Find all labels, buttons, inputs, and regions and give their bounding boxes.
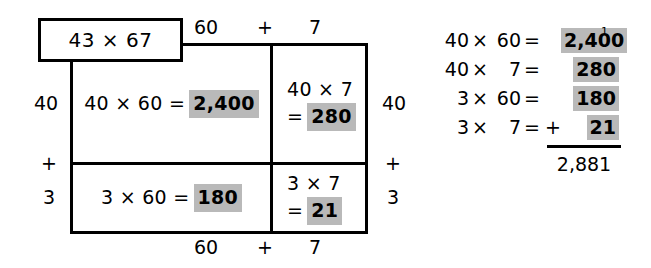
cell-bottom-right-expression: 3 × 7 — [287, 171, 341, 196]
carry-digit: 1 — [601, 26, 608, 37]
equals-icon: = — [521, 87, 543, 109]
calc-row: 40 × 7 = 280 — [443, 57, 627, 86]
left-label-3: 3 — [36, 186, 62, 208]
calc-row-value-wrap: 180 — [561, 86, 619, 111]
calc-row: 3 × 60 = 180 — [443, 86, 627, 115]
equals-icon: = — [521, 116, 543, 138]
calc-row-value: 180 — [573, 86, 619, 111]
equals-icon: = — [521, 58, 543, 80]
calc-row-value-wrap: 21 — [561, 115, 619, 140]
partial-products-calculation: 1 40 × 60 = 2,400 40 × 7 = 280 3 × 60 = … — [443, 28, 627, 183]
left-label-40: 40 — [28, 92, 64, 114]
cell-bottom-left-result: 180 — [194, 184, 243, 212]
multiply-icon: × — [469, 29, 491, 51]
equals-icon: = — [521, 29, 543, 51]
cell-top-right: 40 × 7 = 280 — [273, 46, 365, 162]
calc-row-operand-a: 3 — [443, 87, 469, 109]
cell-bottom-right: 3 × 7 = 21 — [273, 165, 365, 231]
cell-top-right-equals: = — [287, 104, 303, 129]
calc-row-value-wrap: 280 — [561, 57, 619, 82]
cell-bottom-left-expression: 3 × 60 = — [101, 185, 190, 210]
cell-top-right-expression: 40 × 7 — [287, 77, 353, 102]
calc-row-operand-a: 40 — [443, 29, 469, 51]
right-label-40: 40 — [376, 92, 412, 114]
calc-row-value-wrap: 2,400 — [561, 28, 627, 53]
calc-row: 3 × 7 = + 21 — [443, 115, 627, 144]
area-model-diagram: 40 × 60 = 2,400 40 × 7 = 280 3 × 60 = 18… — [0, 0, 651, 268]
calc-row-operand-b: 60 — [491, 29, 521, 51]
bottom-label-60: 60 — [186, 236, 226, 258]
right-label-operator: + — [380, 152, 406, 174]
calc-row-value: 2,400 — [561, 28, 627, 53]
calc-row-operand-b: 60 — [491, 87, 521, 109]
cell-top-left-result: 2,400 — [189, 90, 259, 118]
problem-title-label: 43 × 67 — [69, 28, 153, 52]
top-label-operator: + — [250, 16, 280, 38]
multiply-icon: × — [469, 58, 491, 80]
calc-row-plus: + — [543, 116, 561, 138]
area-model-grid: 40 × 60 = 2,400 40 × 7 = 280 3 × 60 = 18… — [70, 43, 368, 234]
top-label-60: 60 — [186, 16, 226, 38]
sum-total-row: 2,881 — [443, 148, 627, 183]
cell-bottom-right-equals: = — [287, 198, 303, 223]
calc-row-operand-b: 7 — [491, 58, 521, 80]
left-label-operator: + — [36, 152, 62, 174]
right-label-3: 3 — [380, 186, 406, 208]
bottom-label-operator: + — [250, 236, 280, 258]
calc-row-value: 280 — [573, 57, 619, 82]
calc-row: 40 × 60 = 2,400 — [443, 28, 627, 57]
calc-row-value: 21 — [587, 115, 619, 140]
cell-bottom-left: 3 × 60 = 180 — [73, 165, 270, 231]
cell-top-left-expression: 40 × 60 = — [84, 91, 185, 116]
problem-title-box: 43 × 67 — [38, 18, 183, 62]
bottom-label-7: 7 — [300, 236, 330, 258]
sum-total: 2,881 — [547, 153, 621, 175]
cell-bottom-right-result: 21 — [307, 197, 342, 225]
cell-top-left: 40 × 60 = 2,400 — [73, 46, 270, 162]
calc-row-operand-a: 3 — [443, 116, 469, 138]
top-label-7: 7 — [300, 16, 330, 38]
cell-top-right-result: 280 — [307, 103, 356, 131]
calc-row-operand-a: 40 — [443, 58, 469, 80]
calc-row-operand-b: 7 — [491, 116, 521, 138]
multiply-icon: × — [469, 87, 491, 109]
multiply-icon: × — [469, 116, 491, 138]
